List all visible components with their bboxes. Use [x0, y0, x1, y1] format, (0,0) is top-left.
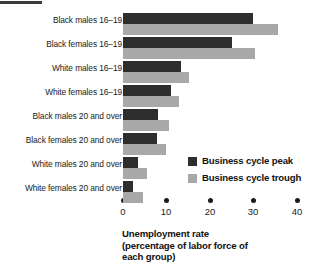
- bar-peak: [123, 61, 181, 72]
- bar-peak: [123, 181, 133, 192]
- category-label: White females 20 and over: [2, 183, 122, 193]
- bar-trough: [123, 96, 179, 107]
- chart-row: Black females 16–19: [0, 36, 321, 60]
- bar-peak: [123, 157, 138, 168]
- chart-row: White males 16–19: [0, 60, 321, 84]
- bar-trough: [123, 120, 169, 131]
- bar-peak: [123, 109, 158, 120]
- bar-peak: [123, 85, 171, 96]
- x-axis: 0 10 20 30 40: [0, 198, 321, 228]
- chart-row: Black males 20 and over: [0, 108, 321, 132]
- axis-tick-label: 20: [195, 206, 225, 217]
- bar-peak: [123, 37, 232, 48]
- legend-item-peak: Business cycle peak: [188, 154, 321, 171]
- axis-tick-dot: [164, 198, 169, 203]
- x-axis-title: Unemployment rate (percentage of labor f…: [122, 228, 317, 263]
- legend-label-peak: Business cycle peak: [202, 155, 293, 167]
- bar-trough: [123, 24, 278, 35]
- bar-trough: [123, 168, 147, 179]
- axis-tick-dot: [251, 198, 256, 203]
- axis-title-line-1: Unemployment rate: [122, 228, 317, 240]
- category-label: Black females 20 and over: [2, 135, 122, 145]
- axis-tick-dot: [295, 198, 300, 203]
- chart-row: Black females 20 and over: [0, 132, 321, 156]
- category-label: White females 16–19: [2, 87, 122, 97]
- unemployment-rate-bar-chart: Black males 16–19 Black females 16–19 Wh…: [0, 0, 321, 275]
- axis-tick-label: 0: [108, 206, 138, 217]
- axis-tick-label: 10: [151, 206, 181, 217]
- axis-tick-label: 30: [238, 206, 268, 217]
- axis-title-line-3: each group): [122, 251, 317, 263]
- chart-legend: Business cycle peak Business cycle troug…: [188, 154, 321, 188]
- legend-swatch-peak: [188, 157, 197, 166]
- axis-title-line-2: (percentage of labor force of: [122, 240, 317, 252]
- bar-trough: [123, 144, 166, 155]
- legend-label-trough: Business cycle trough: [202, 172, 301, 184]
- category-label: Black males 16–19: [2, 15, 122, 25]
- category-label: Black males 20 and over: [2, 111, 122, 121]
- bar-trough: [123, 192, 143, 203]
- bar-peak: [123, 13, 253, 24]
- bar-trough: [123, 48, 255, 59]
- chart-row: White females 16–19: [0, 84, 321, 108]
- legend-swatch-trough: [188, 174, 197, 183]
- top-rule-decoration: [0, 1, 42, 4]
- category-label: Black females 16–19: [2, 39, 122, 49]
- category-label: White males 16–19: [2, 63, 122, 73]
- axis-tick-label: 40: [282, 206, 312, 217]
- bar-trough: [123, 72, 189, 83]
- bar-peak: [123, 133, 157, 144]
- category-label: White males 20 and over: [2, 159, 122, 169]
- axis-tick-dot: [208, 198, 213, 203]
- chart-row: Black males 16–19: [0, 12, 321, 36]
- legend-item-trough: Business cycle trough: [188, 171, 321, 188]
